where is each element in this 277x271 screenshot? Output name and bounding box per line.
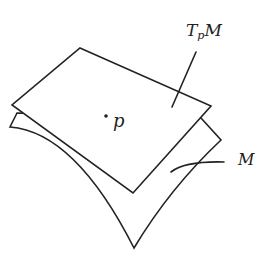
tangent-plane-label: TpM xyxy=(186,20,222,42)
point-p-dot xyxy=(104,114,108,118)
manifold-label: M xyxy=(238,150,254,169)
point-p-label: p xyxy=(113,110,125,131)
tangent-space-diagram xyxy=(0,0,277,271)
diagram-canvas: TpM p M xyxy=(0,0,277,271)
tangent-plane-label-t: T xyxy=(186,20,197,40)
point-p-label-text: p xyxy=(113,110,125,131)
tangent-plane-label-m: M xyxy=(204,20,221,40)
manifold-label-text: M xyxy=(238,150,254,169)
